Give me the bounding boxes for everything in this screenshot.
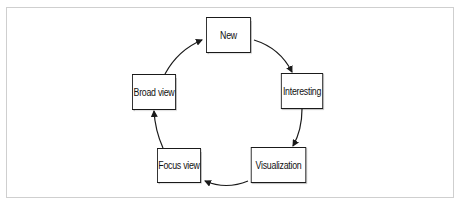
node-broad-view: Broad view xyxy=(132,74,176,110)
node-visualization-label: Visualization xyxy=(256,160,302,171)
node-focus-view: Focus view xyxy=(157,148,201,183)
node-interesting: Interesting xyxy=(281,73,323,109)
node-broad-view-label: Broad view xyxy=(134,87,175,98)
node-interesting-label: Interesting xyxy=(283,86,321,97)
node-new-label: New xyxy=(220,30,237,41)
node-visualization: Visualization xyxy=(251,147,306,183)
node-new: New xyxy=(206,17,251,53)
node-focus-view-label: Focus view xyxy=(158,160,199,171)
